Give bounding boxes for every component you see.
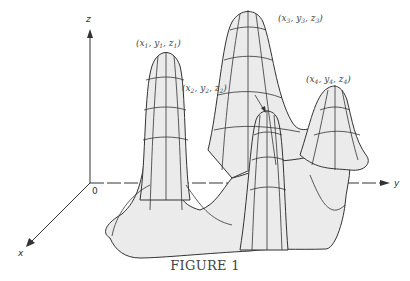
x-axis-label: x <box>17 248 24 258</box>
surface-diagram: z y x 0 (x1, y1, z1) (x2, y2, z2) (x3, y… <box>0 0 410 281</box>
figure-caption: FIGURE 1 <box>0 258 410 273</box>
point-3-label: (x3, y3, z3) <box>278 13 323 24</box>
peak-4 <box>300 86 368 170</box>
peak-1 <box>140 53 190 201</box>
y-axis-arrow-icon <box>380 180 390 186</box>
z-axis-label: z <box>85 14 91 24</box>
origin-label: 0 <box>92 186 98 196</box>
z-axis-arrow-icon <box>87 29 93 38</box>
y-axis-label: y <box>393 178 400 188</box>
point-1-label: (x1, y1, z1) <box>136 38 181 49</box>
point-4-label: (x4, y4, z4) <box>306 74 351 85</box>
